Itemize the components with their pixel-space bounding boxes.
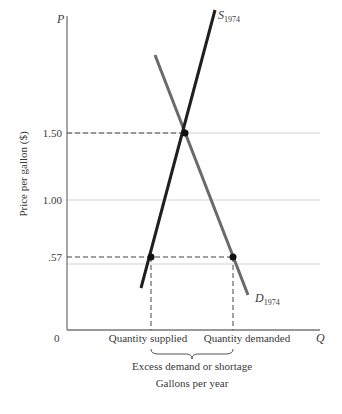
shortage-brace (151, 349, 233, 359)
q-axis-label: Q (316, 331, 325, 345)
x-axis-title: Gallons per year (156, 377, 229, 389)
equilibrium-point (182, 130, 189, 137)
demand-label: D1974 (254, 291, 280, 307)
p-axis-label: P (56, 12, 65, 26)
supply-label: S1974 (218, 8, 240, 24)
origin-label: 0 (54, 332, 60, 344)
qs-point (148, 254, 155, 261)
tick-100: 1.00 (43, 194, 63, 206)
y-axis-title: Price per gallon ($) (17, 131, 30, 217)
quantity-demanded-label: Quantity demanded (204, 332, 291, 344)
shortage-label: Excess demand or shortage (132, 360, 252, 372)
quantity-supplied-label: Quantity supplied (109, 332, 188, 344)
supply-curve (141, 10, 215, 288)
tick-150: 1.50 (43, 127, 63, 139)
tick-057: .57 (48, 251, 62, 263)
supply-label-sub: 1974 (224, 15, 240, 24)
supply-demand-chart: P Q 0 1.50 1.00 .57 Price per gallon ($)… (0, 0, 342, 414)
qd-point (230, 254, 237, 261)
demand-label-sub: 1974 (264, 298, 280, 307)
